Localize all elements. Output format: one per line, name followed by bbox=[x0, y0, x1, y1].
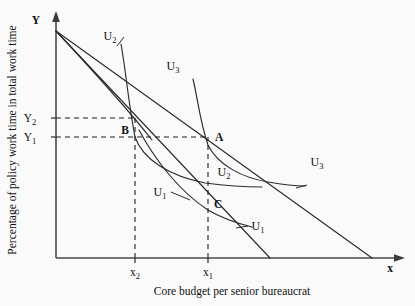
curve-label-u3-right: U3 bbox=[311, 155, 324, 171]
x-tick-label-x1: x1 bbox=[203, 266, 213, 281]
curve-label-u3-right-base: U bbox=[311, 155, 320, 169]
x-tick-label-x2: x2 bbox=[130, 266, 140, 281]
x-tick-x1-sub: 1 bbox=[209, 271, 213, 281]
y-axis-title: Percentage of policy work time in total … bbox=[6, 25, 19, 254]
point-label-c: C bbox=[214, 198, 222, 210]
guide-lines-group bbox=[56, 118, 208, 258]
budget-lines-group bbox=[56, 31, 372, 258]
x-axis-symbol: x bbox=[387, 262, 393, 274]
svg-text:x1: x1 bbox=[203, 266, 213, 281]
curve-label-u2-mid-base: U bbox=[218, 165, 227, 179]
figure-canvas: Y x Y2 Y1 x2 x1 B A C bbox=[0, 0, 415, 306]
svg-text:Y1: Y1 bbox=[24, 131, 37, 146]
x-axis-arrow-icon bbox=[394, 254, 405, 262]
svg-text:Y2: Y2 bbox=[24, 112, 37, 127]
curve-label-u1-right-base: U bbox=[252, 219, 261, 233]
curve-label-u2-top-sub: 2 bbox=[112, 35, 116, 45]
curve-label-u2-mid-sub: 2 bbox=[226, 171, 230, 181]
y-tick-y2-sub: 2 bbox=[32, 117, 36, 127]
curve-label-u1-left: U1 bbox=[154, 185, 167, 201]
y-tick-y1-sub: 1 bbox=[32, 136, 36, 146]
x-tick-x2-sub: 2 bbox=[136, 271, 140, 281]
curve-label-u3-top-sub: 3 bbox=[175, 65, 179, 75]
point-label-b: B bbox=[121, 124, 129, 136]
curve-label-u1-right: U1 bbox=[252, 219, 265, 235]
budget-line-flat bbox=[56, 31, 372, 258]
axes-group bbox=[52, 11, 405, 262]
curve-label-u1-left-base: U bbox=[154, 185, 163, 199]
x-axis-title: Core budget per senior bureaucrat bbox=[154, 285, 311, 298]
curve-label-u3-top-base: U bbox=[167, 59, 176, 73]
leader-line-u2-top bbox=[117, 37, 124, 46]
indifference-curve-u2 bbox=[121, 44, 262, 187]
curve-label-u2-top-base: U bbox=[104, 29, 113, 43]
y-tick-label-y1: Y1 bbox=[24, 131, 37, 146]
point-label-a: A bbox=[215, 131, 224, 143]
budget-line-auxiliary bbox=[56, 31, 152, 140]
y-axis-arrow-icon bbox=[52, 11, 60, 22]
curve-label-u1-left-sub: 1 bbox=[162, 191, 166, 201]
y-tick-label-y2: Y2 bbox=[24, 112, 37, 127]
curve-label-u1-right-sub: 1 bbox=[260, 225, 264, 235]
curve-label-u3-top: U3 bbox=[167, 59, 180, 75]
curve-label-u3-right-sub: 3 bbox=[319, 161, 323, 171]
economics-indifference-curve-diagram: Y x Y2 Y1 x2 x1 B A C bbox=[0, 0, 415, 306]
y-axis-symbol: Y bbox=[32, 14, 41, 26]
curve-label-u2-top: U2 bbox=[104, 29, 117, 45]
svg-text:x2: x2 bbox=[130, 266, 140, 281]
